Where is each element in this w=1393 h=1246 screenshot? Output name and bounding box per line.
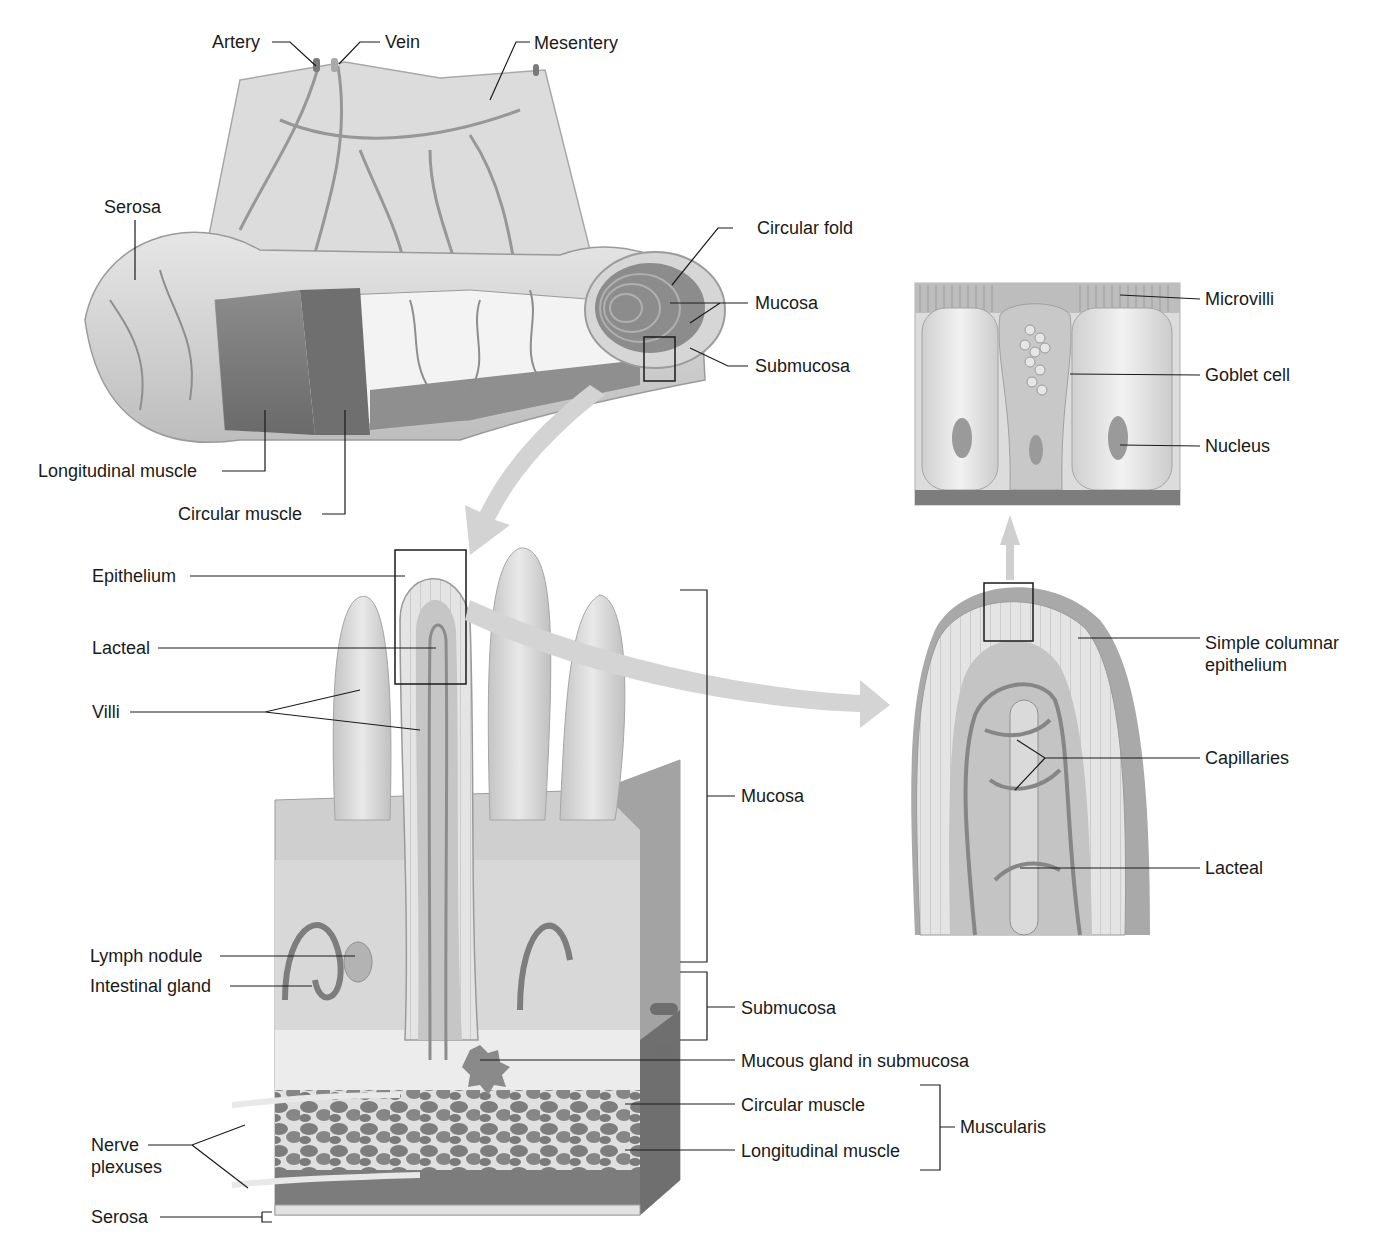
epithelium-detail-illustration bbox=[915, 283, 1180, 505]
label-serosa-bottom: Serosa bbox=[91, 1206, 148, 1228]
villus-3 bbox=[488, 548, 550, 820]
intestine-overview-illustration bbox=[85, 58, 725, 442]
circular-muscle-section bbox=[275, 1090, 640, 1170]
zoom-arrow-epithelium bbox=[1000, 515, 1020, 580]
nucleus-goblet bbox=[1029, 435, 1043, 465]
villus-detail-illustration bbox=[911, 583, 1150, 935]
label-goblet-cell: Goblet cell bbox=[1205, 364, 1290, 386]
label-villi: Villi bbox=[92, 701, 120, 723]
label-lacteal-detail: Lacteal bbox=[1205, 857, 1263, 879]
label-capillaries: Capillaries bbox=[1205, 747, 1289, 769]
side-vessel-2 bbox=[655, 1045, 671, 1057]
label-longitudinal-muscle: Longitudinal muscle bbox=[741, 1140, 900, 1162]
lumen-inner bbox=[595, 263, 705, 353]
label-submucosa: Submucosa bbox=[741, 997, 836, 1019]
side-vessel-1 bbox=[650, 1003, 678, 1015]
label-artery: Artery bbox=[212, 31, 260, 53]
villus-core bbox=[416, 600, 462, 1040]
label-submucosa-top: Submucosa bbox=[755, 355, 850, 377]
label-vein: Vein bbox=[385, 31, 420, 53]
label-circular-muscle: Circular muscle bbox=[741, 1094, 865, 1116]
label-lymph-nodule: Lymph nodule bbox=[90, 945, 202, 967]
serosa-section bbox=[275, 1205, 640, 1215]
label-circular-fold: Circular fold bbox=[757, 217, 853, 239]
villus-4 bbox=[560, 595, 625, 820]
label-simple-columnar-epithelium: Simple columnar epithelium bbox=[1205, 632, 1375, 676]
label-circular-muscle-top: Circular muscle bbox=[178, 503, 302, 525]
label-microvilli: Microvilli bbox=[1205, 288, 1274, 310]
label-lacteal: Lacteal bbox=[92, 637, 150, 659]
villus-1 bbox=[333, 596, 391, 820]
side-muscle bbox=[640, 1010, 680, 1215]
lymph-nodule-shape bbox=[344, 942, 372, 982]
label-longitudinal-muscle-top: Longitudinal muscle bbox=[38, 460, 197, 482]
columnar-cell-left bbox=[922, 308, 998, 490]
vein-stub bbox=[331, 58, 338, 72]
label-nucleus: Nucleus bbox=[1205, 435, 1270, 457]
basement-membrane bbox=[915, 490, 1180, 505]
label-epithelium: Epithelium bbox=[92, 565, 176, 587]
label-mucous-gland: Mucous gland in submucosa bbox=[741, 1050, 969, 1072]
label-serosa-top: Serosa bbox=[104, 196, 161, 218]
label-mesentery: Mesentery bbox=[534, 32, 618, 54]
columnar-cell-right bbox=[1072, 308, 1172, 490]
label-intestinal-gland: Intestinal gland bbox=[90, 975, 211, 997]
nucleus-right bbox=[1108, 416, 1128, 460]
label-nerve-plexuses: Nerve plexuses bbox=[91, 1134, 181, 1178]
nucleus-left bbox=[952, 418, 972, 458]
vessel-stub bbox=[533, 64, 539, 76]
diagram-canvas bbox=[0, 0, 1393, 1246]
label-mucosa-top: Mucosa bbox=[755, 292, 818, 314]
label-mucosa: Mucosa bbox=[741, 785, 804, 807]
label-muscularis: Muscularis bbox=[960, 1116, 1046, 1138]
